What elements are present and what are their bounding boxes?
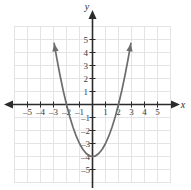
- y-tick-label: 3: [84, 61, 89, 71]
- y-axis-label: y: [84, 1, 90, 12]
- figure-background: [0, 0, 191, 190]
- y-tick-label: –5: [80, 165, 91, 175]
- y-tick-label: 4: [84, 48, 89, 58]
- coordinate-plane-svg: –5 –4 –3 –2 –1 1 2 3 4 5 5 4 3 2 1 –1 –2…: [0, 0, 191, 190]
- y-tick-label: 2: [84, 74, 89, 84]
- x-axis-label: x: [180, 99, 186, 110]
- x-tick-label: 4: [142, 107, 147, 117]
- x-tick-label: –3: [48, 107, 59, 117]
- x-tick-label: 1: [103, 107, 108, 117]
- x-tick-label: –5: [22, 107, 33, 117]
- y-tick-label: –2: [80, 126, 90, 136]
- y-tick-label: 1: [84, 87, 89, 97]
- y-tick-label: 5: [84, 35, 89, 45]
- y-tick-label: –1: [80, 113, 90, 123]
- graph-figure: –5 –4 –3 –2 –1 1 2 3 4 5 5 4 3 2 1 –1 –2…: [0, 0, 191, 190]
- x-tick-label: 5: [155, 107, 160, 117]
- x-tick-label: 3: [129, 107, 134, 117]
- x-tick-label: –4: [35, 107, 46, 117]
